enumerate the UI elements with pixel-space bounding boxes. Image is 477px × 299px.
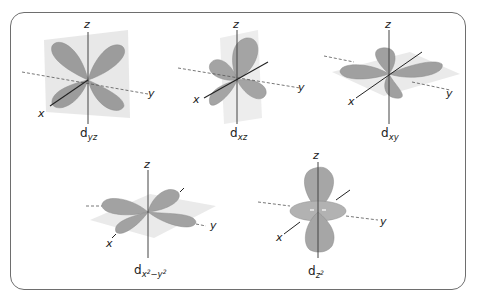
orbital-panel-dx2y2: z y x dx2−y2: [60, 140, 240, 299]
orbital-panel-dxz: z y x dxz: [150, 0, 320, 150]
z-axis-label: z: [84, 19, 90, 30]
orbital-panel-dxy: z y x dxy: [310, 0, 477, 150]
y-axis-label: y: [298, 82, 305, 93]
z-axis-label: z: [385, 19, 391, 30]
y-axis-label: y: [446, 88, 453, 99]
z-axis-label: z: [313, 150, 319, 161]
z-axis-label: z: [233, 19, 239, 30]
orbital-label-dx2y2: dx2−y2: [134, 264, 166, 276]
y-axis-label: y: [380, 216, 387, 227]
x-axis-label: x: [38, 108, 45, 119]
orbital-label-dyz: dyz: [80, 127, 97, 139]
x-axis-label: x: [276, 232, 283, 243]
orbital-label-dz2: dz2: [308, 265, 324, 277]
orbital-dz2-graphic: [250, 130, 400, 299]
x-axis-label: x: [348, 96, 355, 107]
orbital-panel-dyz: z y x dyz: [0, 0, 160, 150]
x-axis-label: x: [106, 238, 113, 249]
y-axis-label: y: [210, 220, 217, 231]
z-axis-label: z: [144, 159, 150, 170]
orbital-panel-dz2: z y x dz2: [250, 130, 400, 299]
orbital-label-dxz: dxz: [230, 127, 247, 139]
x-axis-label: x: [193, 94, 200, 105]
